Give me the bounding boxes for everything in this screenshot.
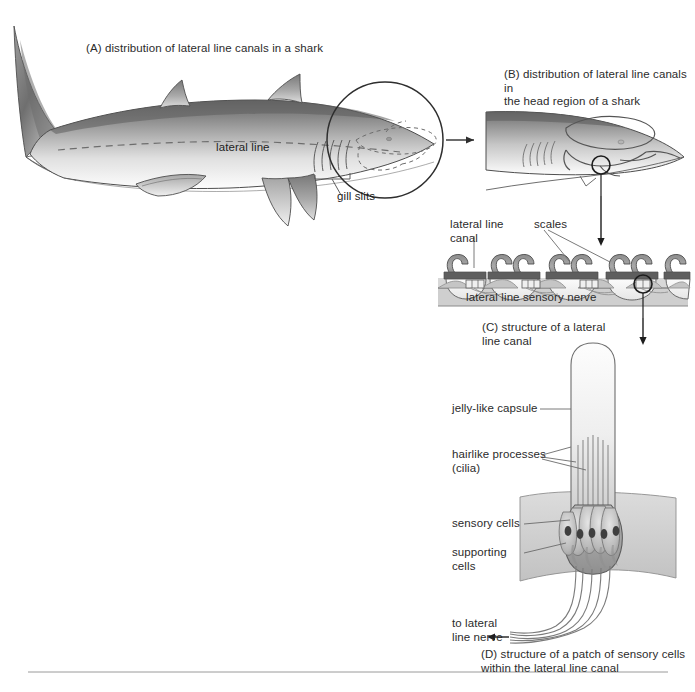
arrow-c-to-d <box>639 318 646 345</box>
lateral-line-label: lateral line <box>216 141 270 155</box>
caption-panel-b: (B) distribution of lateral line canals … <box>504 68 695 109</box>
gill-slits-label: gill slits <box>337 190 375 204</box>
dorsal-fin-second <box>268 74 302 103</box>
figure-root: (A) distribution of lateral line canals … <box>0 0 695 692</box>
pectoral-fins <box>262 174 317 226</box>
magnifier-arrow <box>446 137 474 144</box>
arrow-b-to-c <box>597 196 604 246</box>
to-lateral-line-nerve-label: to lateral line nerve <box>452 617 503 644</box>
caption-panel-c: (C) structure of a lateral line canal <box>482 321 605 348</box>
panel-d-sensory-patch <box>487 343 676 643</box>
eye-marking-b <box>618 140 624 144</box>
panel-b-head <box>486 112 684 246</box>
scales-label: scales <box>534 218 567 232</box>
sensory-cells-label: sensory cells <box>452 517 520 531</box>
lateral-line-canal-label: lateral line canal <box>450 218 504 245</box>
panel-a-shark <box>14 26 474 226</box>
canal-unit <box>606 254 658 300</box>
caption-panel-d: (D) structure of a patch of sensory cell… <box>481 648 685 675</box>
cilia-group <box>578 435 608 512</box>
caption-panel-a: (A) distribution of lateral line canals … <box>86 42 323 56</box>
eye-marking <box>386 137 391 140</box>
supporting-cells-label: supporting cells <box>452 546 507 573</box>
sensory-nerve-label: lateral line sensory nerve <box>466 291 596 305</box>
jelly-capsule-label: jelly-like capsule <box>452 402 538 416</box>
dorsal-fin-first <box>160 80 190 108</box>
hairlike-processes-label: hairlike processes (cilia) <box>452 448 546 475</box>
